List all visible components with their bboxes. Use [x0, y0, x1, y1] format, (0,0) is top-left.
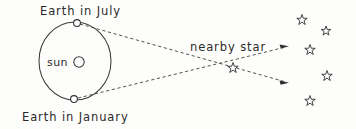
- sun-symbol: [74, 57, 84, 67]
- nearby-star-icon: [228, 63, 238, 73]
- arrowhead-july: [280, 81, 290, 85]
- label-earth-in-july: Earth in July: [40, 4, 121, 18]
- arrowhead-january: [280, 44, 289, 48]
- background-star-2: [321, 26, 331, 35]
- label-nearby-star: nearby star: [190, 40, 266, 54]
- diagram-canvas: Earth in July Earth in January sun nearb…: [0, 0, 356, 129]
- earth-july-marker: [74, 20, 81, 27]
- background-star-5: [305, 96, 315, 106]
- label-sun: sun: [47, 56, 68, 69]
- background-star-3: [305, 45, 315, 55]
- earth-january-marker: [71, 96, 78, 103]
- background-star-4: [322, 71, 332, 81]
- parallax-diagram: Earth in July Earth in January sun nearb…: [0, 0, 356, 129]
- background-star-1: [297, 15, 307, 25]
- label-earth-in-january: Earth in January: [22, 110, 129, 124]
